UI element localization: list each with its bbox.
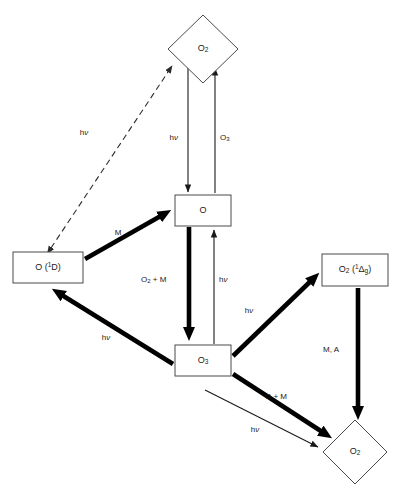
label-base: O ( (35, 262, 48, 272)
node-o2-bottom[interactable]: O2 (323, 420, 387, 484)
label-base: O (199, 205, 206, 215)
edge-label-o2top-o1d: hν (80, 128, 88, 137)
node-o3[interactable]: O3 (175, 345, 231, 376)
edge-label-o3-to-o: hν (219, 275, 227, 284)
label-sub: 2 (205, 46, 209, 53)
label-base: O (198, 355, 205, 365)
node-o1d[interactable]: O (1D) (13, 252, 83, 283)
edge-label-o3-to-o2delta: hν (245, 306, 253, 315)
edge-line (233, 277, 315, 356)
edge-o3-to-o1d (57, 292, 173, 364)
edge-line (85, 213, 166, 259)
edge-o3-to-o2delta (233, 277, 315, 356)
edge-label-o-to-o3: O2 + M (141, 275, 167, 284)
diagram-canvas: O2 O O (1D) O3 O2 (1Δg) O2 hν hν (0, 0, 399, 496)
edge-label-o-to-o2top: O3 (220, 133, 230, 142)
label-sub: 2 (357, 449, 361, 456)
edge-label-o2top-to-o: hν (170, 133, 178, 142)
edge-label-o3-to-o2bottom-thin: hν (251, 425, 259, 434)
label-tail: D) (51, 262, 61, 272)
edge-o3-to-o2bottom-thick (233, 374, 327, 435)
node-o2-top[interactable]: O2 (168, 15, 238, 83)
label-base: O (198, 43, 205, 53)
ozone-cycle-diagram: O2 O O (1D) O3 O2 (1Δg) O2 hν hν (0, 0, 399, 496)
edge-o1d-to-o (85, 213, 166, 259)
label-sub: 3 (205, 358, 209, 365)
label-base: O (339, 264, 346, 274)
node-o2-delta[interactable]: O2 (1Δg) (322, 254, 388, 286)
edge-line (57, 292, 173, 364)
label-tail: ) (368, 264, 371, 274)
edge-label-o2delta-to-o2bottom: M, A (323, 345, 340, 354)
node-o-atom[interactable]: O (175, 195, 231, 226)
edge-label-o1d-to-o: M (115, 228, 122, 237)
edge-label-o3-to-o2bottom-thick: O + M (265, 392, 287, 401)
node-o-atom-label: O (199, 205, 206, 215)
edge-line (233, 374, 327, 435)
label-base: O (350, 446, 357, 456)
edge-label-o3-to-o1d: hν (102, 333, 110, 342)
